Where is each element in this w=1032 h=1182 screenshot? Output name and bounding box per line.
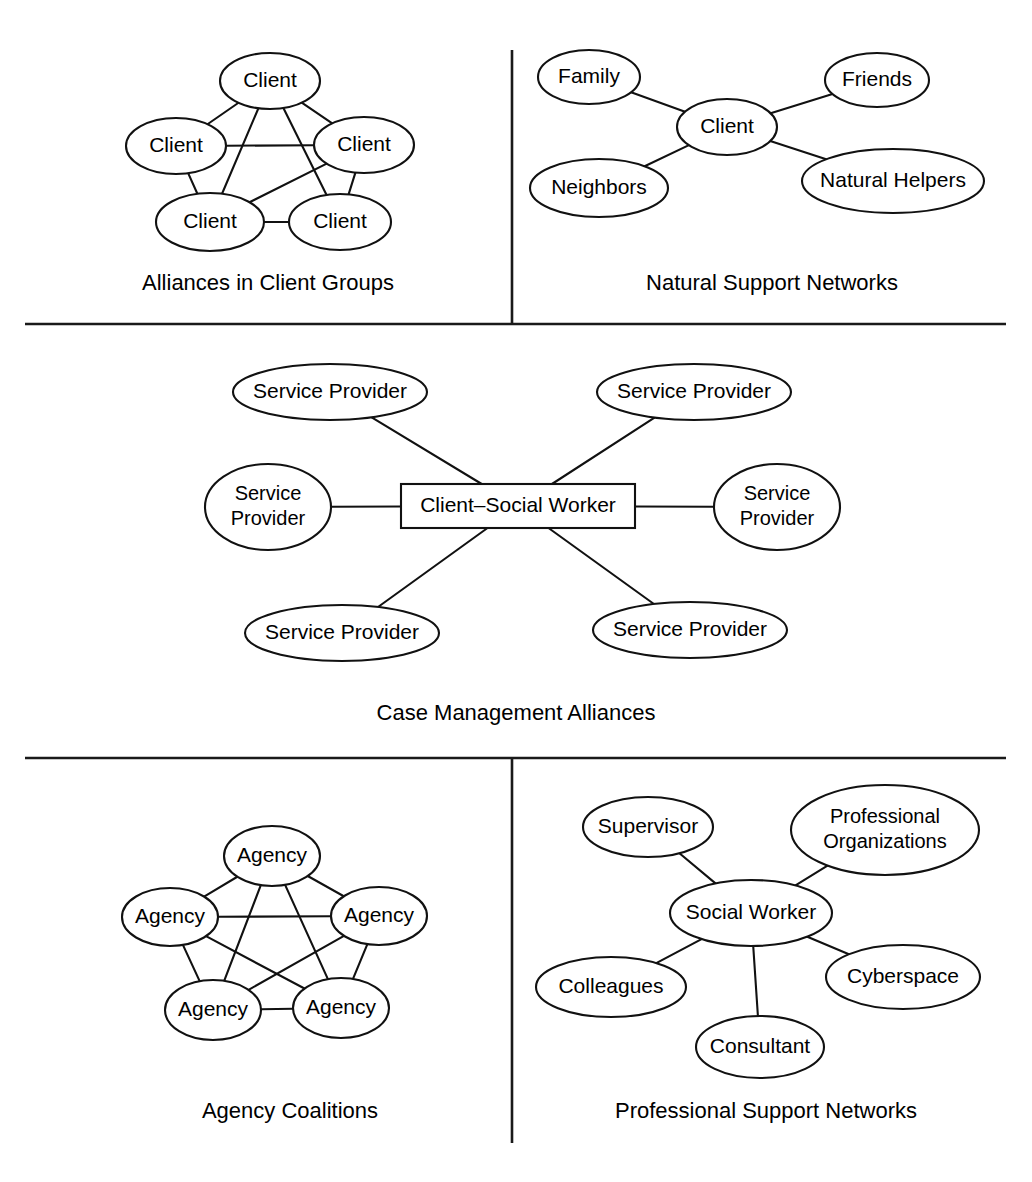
edge-n-client-to-n-helpers xyxy=(770,141,826,159)
panel-agency-coalitions: AgencyAgencyAgencyAgencyAgencyAgency Coa… xyxy=(122,826,427,1123)
node-c-left[interactable]: Client xyxy=(126,118,226,174)
edge-c-top-to-c-right xyxy=(302,103,332,124)
node-label-cm-tl: Service Provider xyxy=(253,379,407,402)
panel-case-management-alliances: Client–Social WorkerService ProviderServ… xyxy=(205,364,840,725)
node-cm-bl[interactable]: Service Provider xyxy=(245,605,439,661)
edge-c-right-to-c-bright xyxy=(349,173,356,195)
node-n-client[interactable]: Client xyxy=(677,99,777,155)
network-diagrams-figure: ClientClientClientClientClientAlliances … xyxy=(0,0,1032,1182)
panel-caption-agency-coalitions: Agency Coalitions xyxy=(202,1098,378,1123)
node-n-friends[interactable]: Friends xyxy=(825,53,929,107)
node-label-cm-bl: Service Provider xyxy=(265,620,419,643)
edge-n-client-to-n-family xyxy=(631,92,685,112)
node-label-n-helpers: Natural Helpers xyxy=(820,168,966,191)
panel-caption-alliances-in-client-groups: Alliances in Client Groups xyxy=(142,270,394,295)
node-c-bright[interactable]: Client xyxy=(289,194,391,250)
node-label-cm-br: Service Provider xyxy=(613,617,767,640)
edge-a-bleft-to-a-bright xyxy=(261,1009,293,1010)
node-a-top[interactable]: Agency xyxy=(224,826,320,886)
panel-natural-support-networks: ClientFamilyFriendsNeighborsNatural Help… xyxy=(530,50,984,295)
node-a-bright[interactable]: Agency xyxy=(293,978,389,1038)
node-p-orgs[interactable]: ProfessionalOrganizations xyxy=(791,785,979,875)
node-c-bleft[interactable]: Client xyxy=(156,193,264,251)
edge-p-sw-to-p-cons xyxy=(753,946,758,1016)
edge-c-top-to-c-bleft xyxy=(222,108,258,193)
nodes-professional-support-networks: Social WorkerSupervisorProfessionalOrgan… xyxy=(536,785,980,1078)
node-a-right[interactable]: Agency xyxy=(331,887,427,945)
edge-p-sw-to-p-coll xyxy=(656,939,701,963)
node-p-sw[interactable]: Social Worker xyxy=(670,880,832,946)
node-label-c-bright: Client xyxy=(313,209,367,232)
node-p-coll[interactable]: Colleagues xyxy=(536,957,686,1017)
edge-a-left-to-a-bleft xyxy=(183,945,200,981)
node-a-bleft[interactable]: Agency xyxy=(165,980,261,1040)
edge-cm-hub-to-cm-br xyxy=(549,528,654,604)
node-cm-tl[interactable]: Service Provider xyxy=(233,364,427,420)
edge-n-client-to-n-neighbors xyxy=(645,145,689,166)
edge-a-right-to-a-bright xyxy=(353,944,367,979)
node-p-cons[interactable]: Consultant xyxy=(696,1016,824,1078)
node-label-p-coll: Colleagues xyxy=(558,974,663,997)
figure-root: ClientClientClientClientClientAlliances … xyxy=(0,0,1032,1182)
node-p-super[interactable]: Supervisor xyxy=(583,797,713,857)
node-cm-tr[interactable]: Service Provider xyxy=(597,364,791,420)
edge-a-left-to-a-right xyxy=(218,916,331,917)
node-a-left[interactable]: Agency xyxy=(122,888,218,946)
node-label-c-right: Client xyxy=(337,132,391,155)
node-cm-hub[interactable]: Client–Social Worker xyxy=(401,484,635,528)
node-p-cyber[interactable]: Cyberspace xyxy=(826,945,980,1009)
nodes-natural-support-networks: ClientFamilyFriendsNeighborsNatural Help… xyxy=(530,50,984,217)
edge-a-top-to-a-left xyxy=(204,877,237,897)
node-n-helpers[interactable]: Natural Helpers xyxy=(802,149,984,213)
node-label-a-bright: Agency xyxy=(306,995,377,1018)
edge-cm-hub-to-cm-bl xyxy=(378,528,487,607)
edge-p-sw-to-p-orgs xyxy=(796,866,828,886)
node-c-top[interactable]: Client xyxy=(220,53,320,109)
edge-a-top-to-a-bleft xyxy=(224,885,261,981)
node-label-n-neighbors: Neighbors xyxy=(551,175,647,198)
edge-n-client-to-n-friends xyxy=(771,94,833,113)
node-label-p-super: Supervisor xyxy=(598,814,698,837)
edge-cm-hub-to-cm-tl xyxy=(372,417,482,484)
edge-p-sw-to-p-super xyxy=(679,853,715,883)
edge-p-sw-to-p-cyber xyxy=(807,937,849,955)
node-label-cm-hub: Client–Social Worker xyxy=(420,493,616,516)
panel-caption-professional-support-networks: Professional Support Networks xyxy=(615,1098,917,1123)
node-cm-r[interactable]: ServiceProvider xyxy=(714,464,840,550)
edge-c-top-to-c-left xyxy=(207,103,238,124)
node-cm-br[interactable]: Service Provider xyxy=(593,602,787,658)
node-c-right[interactable]: Client xyxy=(314,117,414,173)
panel-caption-case-management-alliances: Case Management Alliances xyxy=(377,700,656,725)
node-label-p-cons: Consultant xyxy=(710,1034,811,1057)
node-label-a-right: Agency xyxy=(344,903,415,926)
panel-professional-support-networks: Social WorkerSupervisorProfessionalOrgan… xyxy=(536,785,980,1123)
node-cm-l[interactable]: ServiceProvider xyxy=(205,464,331,550)
edge-a-top-to-a-right xyxy=(308,876,344,896)
edge-c-left-to-c-bleft xyxy=(188,173,197,194)
panels-layer: ClientClientClientClientClientAlliances … xyxy=(122,50,984,1123)
node-label-a-left: Agency xyxy=(135,904,206,927)
node-label-c-left: Client xyxy=(149,133,203,156)
node-label-n-client: Client xyxy=(700,114,754,137)
panel-alliances-in-client-groups: ClientClientClientClientClientAlliances … xyxy=(126,53,414,295)
node-label-n-family: Family xyxy=(558,64,620,87)
nodes-agency-coalitions: AgencyAgencyAgencyAgencyAgency xyxy=(122,826,427,1040)
node-label-c-bleft: Client xyxy=(183,209,237,232)
node-label-p-cyber: Cyberspace xyxy=(847,964,959,987)
node-label-c-top: Client xyxy=(243,68,297,91)
node-label-a-top: Agency xyxy=(237,843,308,866)
nodes-case-management-alliances: Client–Social WorkerService ProviderServ… xyxy=(205,364,840,661)
node-n-neighbors[interactable]: Neighbors xyxy=(530,159,668,217)
node-label-p-sw: Social Worker xyxy=(686,900,816,923)
node-n-family[interactable]: Family xyxy=(538,50,640,104)
node-label-a-bleft: Agency xyxy=(178,997,249,1020)
node-label-n-friends: Friends xyxy=(842,67,912,90)
node-label-cm-tr: Service Provider xyxy=(617,379,771,402)
panel-caption-natural-support-networks: Natural Support Networks xyxy=(646,270,898,295)
edge-cm-hub-to-cm-tr xyxy=(552,418,655,484)
